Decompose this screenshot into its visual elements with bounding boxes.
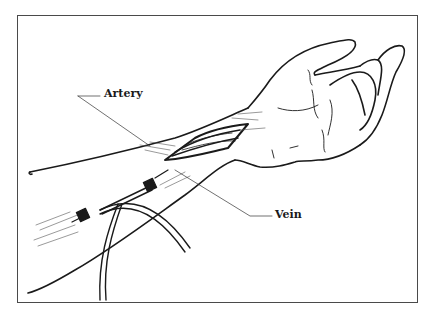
arm-outline [28,40,404,293]
connectors [72,170,168,222]
arm-illustration [0,0,433,321]
artery-label: Artery [104,87,143,100]
vein-label: Vein [275,208,302,221]
palm-creases [272,70,332,158]
incision [165,124,248,160]
tubing [100,186,190,300]
